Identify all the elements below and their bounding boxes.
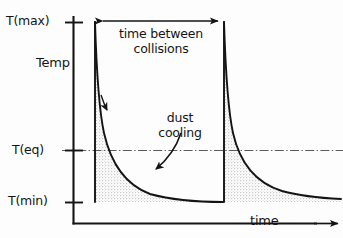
y-tick-label-teq: T(eq) bbox=[12, 142, 44, 157]
dust-cooling-figure: T(max) Temp T(eq) T(min) time time betwe… bbox=[0, 0, 343, 238]
x-axis-label: time bbox=[250, 213, 279, 228]
y-tick-label-tmax: T(max) bbox=[6, 13, 49, 28]
annotation-collisions-line1: time between bbox=[119, 26, 203, 41]
annotation-collisions-line2: collisions bbox=[133, 41, 188, 56]
decay-pointer-arrow bbox=[101, 95, 107, 110]
annotation-dust-cooling: dust cooling bbox=[148, 110, 212, 140]
annotation-dust-line1: dust bbox=[167, 110, 193, 125]
y-tick-label-tmin: T(min) bbox=[8, 193, 48, 208]
annotation-dust-line2: cooling bbox=[158, 125, 202, 140]
y-axis-label: Temp bbox=[36, 55, 70, 70]
annotation-time-between-collisions: time between collisions bbox=[108, 26, 214, 56]
